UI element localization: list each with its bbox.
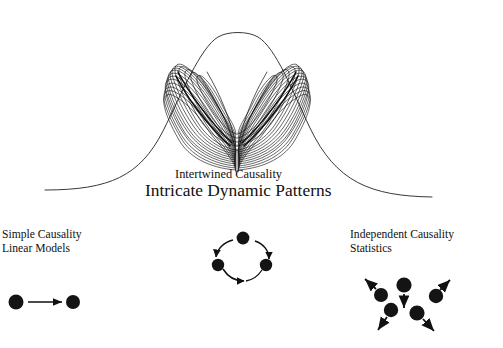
simple-causality-label-line1: Simple Causality [2, 228, 82, 241]
simple-effect-node [66, 295, 80, 309]
independent-causality-label-line1: Independent Causality [350, 228, 454, 241]
cycle-arc-top-left [216, 240, 233, 257]
simple-causality-label-line2: Linear Models [2, 242, 70, 255]
independent-arrow-4 [378, 317, 387, 330]
cycle-node-left [212, 259, 224, 271]
lorenz-right-wing [238, 64, 310, 170]
cycle-arc-bottom-right [246, 270, 262, 281]
independent-causality-label: Independent CausalityStatistics [350, 228, 454, 256]
independent-causality-diagram [365, 277, 450, 331]
independent-node-3 [429, 289, 443, 303]
independent-arrow-3 [440, 280, 450, 290]
cyclic-feedback-diagram [212, 232, 272, 286]
cycle-arc-bottom [223, 269, 244, 281]
lorenz-attractor-icon [164, 64, 311, 172]
cycle-node-top [237, 232, 250, 245]
independent-causality-label-line2: Statistics [350, 242, 392, 255]
independent-arrow-5 [423, 319, 434, 331]
simple-cause-node [9, 295, 24, 310]
independent-node-4 [384, 303, 398, 317]
simple-causality-label: Simple CausalityLinear Models [2, 228, 82, 256]
independent-node-2 [396, 277, 411, 292]
independent-arrow-1 [365, 279, 376, 289]
independent-node-5 [409, 305, 424, 320]
figure-canvas: Simple CausalityLinear Models Independen… [0, 0, 503, 348]
cycle-arc-top-right [255, 241, 269, 259]
independent-node-1 [374, 288, 388, 302]
intricate-dynamic-patterns-label: Intricate Dynamic Patterns [145, 180, 331, 201]
lorenz-left-wing [164, 64, 236, 170]
cycle-node-right [260, 259, 272, 271]
lorenz-center-crossing [200, 72, 274, 172]
simple-causality-diagram [9, 295, 81, 310]
